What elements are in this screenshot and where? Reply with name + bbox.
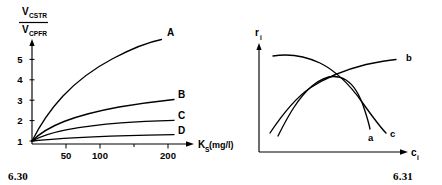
curve-label-C: C (178, 110, 185, 121)
x-axis-arrowhead (400, 149, 408, 154)
curve-label-A: A (167, 27, 174, 38)
chart-right-svg: r i c i b c a (230, 0, 442, 185)
y-tick-label-2: 2 (17, 115, 22, 126)
y-axis-sub: i (260, 34, 262, 41)
x-axis-arrowhead (186, 141, 194, 146)
y-axis-arrowhead (29, 39, 34, 46)
x-ticks-left: 50 100 200 (61, 144, 176, 161)
curve-label-b: b (406, 52, 412, 63)
y-axis-numerator-base: V (22, 6, 29, 17)
figure-number-left: 6.30 (8, 170, 28, 182)
figure-number-right: 6.31 (393, 170, 413, 182)
chart-left-svg: V CSTR V CPFR 1 (0, 0, 230, 185)
y-tick-label-3: 3 (17, 95, 22, 106)
y-axis-label-right: r i (255, 27, 262, 41)
y-axis-label-left: V CSTR V CPFR (19, 6, 48, 37)
y-axis-denominator-base: V (22, 24, 29, 35)
x-axis-label-left: K S (mg/l) (198, 139, 234, 153)
x-axis-label-right: c i (411, 147, 419, 161)
axes-left (29, 39, 194, 147)
x-axis-sub: i (417, 154, 419, 161)
curve-label-B: B (178, 89, 185, 100)
y-axis-arrowhead (256, 43, 261, 50)
y-axis-numerator-sub: CSTR (29, 12, 47, 19)
curve-label-D: D (178, 125, 185, 136)
curve-C (32, 120, 174, 141)
y-tick-label-1: 1 (17, 136, 23, 147)
curve-label-a: a (368, 132, 374, 143)
x-tick-label-200: 200 (160, 150, 176, 161)
x-tick-label-100: 100 (92, 150, 108, 161)
figure-sheet: V CSTR V CPFR 1 (0, 0, 442, 185)
y-tick-label-5: 5 (17, 54, 23, 65)
curve-D (32, 135, 174, 141)
curve-label-c: c (390, 128, 395, 139)
y-axis-base: r (255, 27, 259, 38)
figure-6-31: r i c i b c a (230, 0, 442, 185)
y-tick-label-4: 4 (17, 74, 23, 85)
curve-a (278, 77, 370, 136)
axes-right (256, 43, 408, 155)
x-tick-label-50: 50 (61, 150, 72, 161)
curve-c (273, 55, 386, 133)
figure-6-30: V CSTR V CPFR 1 (0, 0, 230, 185)
y-axis-denominator-sub: CPFR (29, 30, 47, 37)
